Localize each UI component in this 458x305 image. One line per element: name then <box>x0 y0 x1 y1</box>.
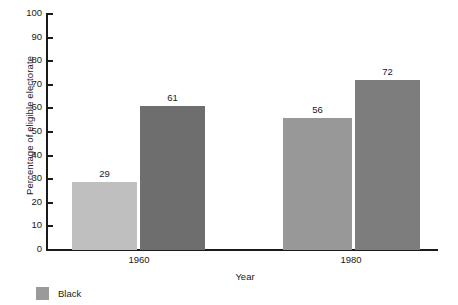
y-tick-label: 100 <box>8 8 42 18</box>
legend-label-black: Black <box>58 288 81 299</box>
bar-value-label: 56 <box>288 104 348 115</box>
bar-chart: Percentage of eligible electorate 010203… <box>0 0 458 305</box>
bar <box>283 118 352 250</box>
y-tick-label: 90 <box>8 32 42 42</box>
plot-area <box>46 14 438 250</box>
x-category-label-1960: 1960 <box>99 254 179 265</box>
legend: Black <box>36 287 81 300</box>
x-axis-title: Year <box>185 271 305 282</box>
bar <box>355 80 420 250</box>
bar-value-label: 29 <box>75 168 135 179</box>
y-tick-label: 50 <box>8 126 42 136</box>
y-tick-label: 40 <box>8 150 42 160</box>
legend-swatch-black <box>36 287 49 300</box>
y-tick-label: 70 <box>8 79 42 89</box>
y-tick-label: 10 <box>8 220 42 230</box>
bar-value-label: 72 <box>358 66 418 77</box>
bar <box>72 182 137 250</box>
x-category-label-1980: 1980 <box>311 254 391 265</box>
y-tick-label: 80 <box>8 55 42 65</box>
y-tick-label: 60 <box>8 102 42 112</box>
y-tick-label: 20 <box>8 197 42 207</box>
y-tick-label: 30 <box>8 173 42 183</box>
y-tick-label: 0 <box>8 244 42 254</box>
bar-value-label: 61 <box>143 92 203 103</box>
bar <box>140 106 205 250</box>
